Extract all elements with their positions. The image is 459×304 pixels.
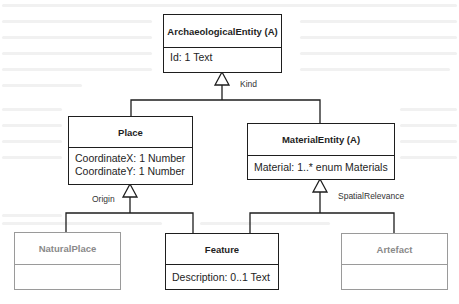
attribute-material: Material: 1..* enum Materials: [254, 161, 388, 174]
spatial-relevance-generalization-arrow-icon: [313, 179, 327, 192]
origin-label: Origin: [92, 194, 115, 204]
kind-generalization-arrow-icon: [215, 72, 229, 85]
class-name: Artefact: [342, 234, 447, 265]
class-natural-place: NaturalPlace: [14, 232, 121, 290]
class-name: ArchaeologicalEntity (A): [164, 15, 281, 48]
class-archaeological-entity: ArchaeologicalEntity (A) Id: 1 Text: [163, 14, 282, 73]
class-name: Place: [69, 117, 192, 148]
class-material-entity: MaterialEntity (A) Material: 1..* enum M…: [247, 123, 395, 180]
origin-generalization-arrow-icon: [123, 184, 137, 197]
class-artefact: Artefact: [341, 233, 448, 290]
attribute-coordinate-x: CoordinateX: 1 Number: [75, 152, 186, 165]
attribute-id: Id: 1 Text: [170, 51, 275, 64]
class-attributes: Id: 1 Text: [164, 48, 281, 72]
class-place: Place CoordinateX: 1 Number CoordinateY:…: [68, 116, 193, 185]
kind-label: Kind: [240, 79, 257, 89]
class-name: MaterialEntity (A): [248, 124, 394, 156]
class-attributes-empty: [342, 265, 447, 289]
spatial-relevance-label: SpatialRelevance: [338, 191, 404, 201]
class-name: Feature: [166, 234, 278, 265]
attribute-description: Description: 0..1 Text: [172, 271, 272, 284]
attribute-coordinate-y: CoordinateY: 1 Number: [75, 165, 186, 178]
class-name: NaturalPlace: [15, 233, 120, 265]
class-attributes: CoordinateX: 1 Number CoordinateY: 1 Num…: [69, 148, 192, 184]
class-attributes-empty: [15, 265, 120, 289]
class-attributes: Material: 1..* enum Materials: [248, 156, 394, 179]
class-attributes: Description: 0..1 Text: [166, 265, 278, 289]
class-feature: Feature Description: 0..1 Text: [165, 233, 279, 290]
